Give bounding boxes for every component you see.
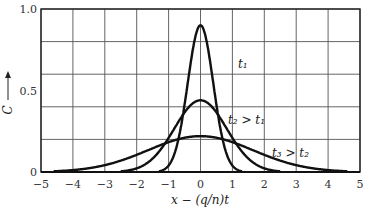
x-tick-label: −3 — [97, 178, 113, 191]
y-tick-label: 0.5 — [20, 85, 38, 98]
x-tick-label: 2 — [261, 178, 268, 191]
x-tick-label: 0 — [197, 178, 204, 191]
x-tick-label: 5 — [357, 178, 364, 191]
concentration-chart: −5−4−3−2−101234500.51.0x − (q/n)tCt₁t₂ >… — [0, 0, 368, 209]
curve-label-t1: t₁ — [238, 57, 248, 71]
arrow-up-icon — [5, 71, 11, 78]
y-tick-label: 0 — [30, 166, 37, 179]
y-axis-label: C — [1, 105, 15, 114]
y-tick-label: 1.0 — [20, 3, 38, 16]
x-tick-label: −5 — [33, 178, 49, 191]
x-tick-label: 1 — [229, 178, 236, 191]
x-tick-label: −1 — [160, 178, 176, 191]
curve-label-t3: t₃ > t₂ — [272, 146, 309, 160]
x-tick-label: −2 — [129, 178, 145, 191]
x-axis-label: x − (q/n)t — [171, 193, 229, 207]
x-tick-label: −4 — [65, 178, 81, 191]
x-tick-label: 4 — [325, 178, 332, 191]
x-tick-label: 3 — [293, 178, 300, 191]
curve-label-t2: t₂ > t₁ — [228, 113, 265, 127]
